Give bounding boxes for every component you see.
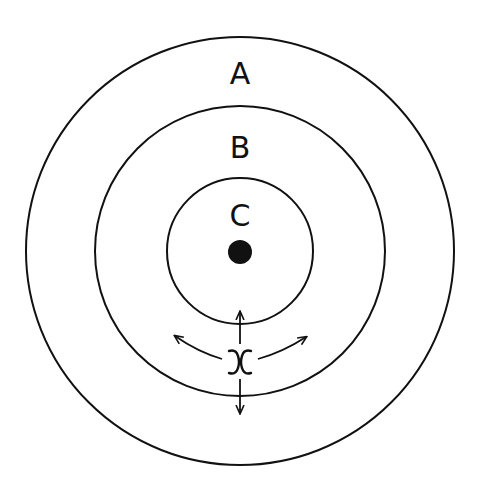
center-dot — [228, 240, 252, 264]
point-x-symbol-icon — [229, 351, 251, 374]
label-b: B — [230, 130, 251, 165]
arrow-up-left-icon — [175, 336, 222, 359]
arrow-up-right-icon — [258, 337, 306, 359]
concentric-circle-diagram: A B C — [0, 0, 480, 499]
label-c: C — [230, 198, 251, 233]
label-a: A — [230, 56, 251, 91]
